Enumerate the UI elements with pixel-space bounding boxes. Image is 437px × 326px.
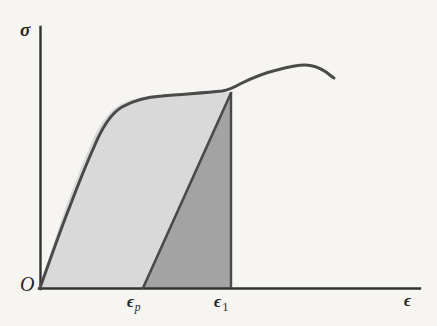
epsilon-p-subscript: p: [134, 301, 140, 314]
stress-strain-figure: σ O ϵp ϵ1 ϵ: [0, 0, 437, 326]
y-axis-label: σ: [20, 20, 30, 39]
epsilon-1-tick-label: ϵ1: [214, 293, 229, 313]
origin-label: O: [20, 274, 34, 294]
stress-strain-plot: [0, 0, 437, 326]
epsilon-1-subscript: 1: [221, 300, 228, 314]
x-axis-label: ϵ: [404, 292, 411, 309]
epsilon-p-tick-label: ϵp: [127, 293, 141, 313]
